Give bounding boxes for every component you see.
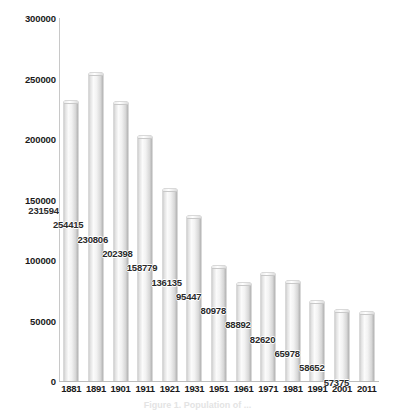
bar-top-cap (335, 310, 349, 313)
bar (64, 101, 78, 381)
y-axis-tick-label: 300000 (0, 13, 56, 24)
y-axis-tick-label: 250000 (0, 73, 56, 84)
bar-value-label: 58652 (299, 362, 324, 373)
x-axis-tick-label: 1931 (184, 383, 204, 394)
x-axis-tick-label: 1981 (283, 383, 303, 394)
x-axis-tick-label: 1911 (135, 383, 154, 394)
bar-top-cap (163, 189, 177, 192)
x-axis-tick-label: 1991 (307, 383, 327, 394)
bar-value-label: 65978 (274, 348, 299, 359)
bar-top-cap (187, 216, 201, 219)
bar-value-label: 254415 (53, 219, 84, 230)
bar-value-label: 230806 (78, 234, 109, 245)
bar-top-cap (237, 283, 251, 286)
x-axis-tick-label: 1961 (234, 383, 254, 394)
x-axis-tick-label: 1951 (209, 383, 229, 394)
bar (286, 281, 300, 381)
bar-top-cap (310, 301, 324, 304)
x-axis-tick-label: 1891 (86, 383, 106, 394)
bar (114, 102, 128, 381)
bar-value-label: 158779 (127, 262, 158, 273)
bar-top-cap (64, 101, 78, 104)
bar-top-cap (286, 281, 300, 284)
bar-value-label: 136135 (151, 277, 182, 288)
bar (138, 136, 152, 381)
bar (335, 310, 349, 381)
y-axis-tick-label: 150000 (0, 194, 56, 205)
x-axis-tick-label: 2001 (332, 383, 352, 394)
plot-area (59, 18, 379, 381)
bar-value-label: 88892 (225, 319, 250, 330)
bar-top-cap (89, 73, 103, 76)
bar-top-cap (212, 266, 226, 269)
bar (237, 283, 251, 381)
x-axis-tick-label: 2011 (357, 383, 376, 394)
bar (261, 273, 275, 381)
bar (212, 266, 226, 381)
bar-value-label: 82620 (250, 334, 275, 345)
bar-top-cap (360, 312, 374, 315)
bar-value-label: 95447 (176, 291, 201, 302)
bar-top-cap (114, 102, 128, 105)
x-axis-tick-label: 1901 (111, 383, 131, 394)
bar-value-label: 80978 (201, 305, 226, 316)
bar-top-cap (138, 136, 152, 139)
x-axis-tick-label: 1881 (61, 383, 81, 394)
y-axis-tick-label: 0 (0, 376, 56, 387)
y-axis-tick-label: 100000 (0, 255, 56, 266)
figure-caption: Figure 1. Population of ... (0, 400, 395, 410)
bar-value-label: 202398 (102, 248, 133, 259)
x-axis-tick-label: 1971 (258, 383, 278, 394)
y-axis-tick-label: 200000 (0, 134, 56, 145)
bar-value-label: 231594 (28, 205, 59, 216)
x-axis-tick-label: 1921 (160, 383, 180, 394)
y-axis-tick-label: 50000 (0, 315, 56, 326)
bar (89, 73, 103, 381)
bar-top-cap (261, 273, 275, 276)
bar (360, 312, 374, 381)
